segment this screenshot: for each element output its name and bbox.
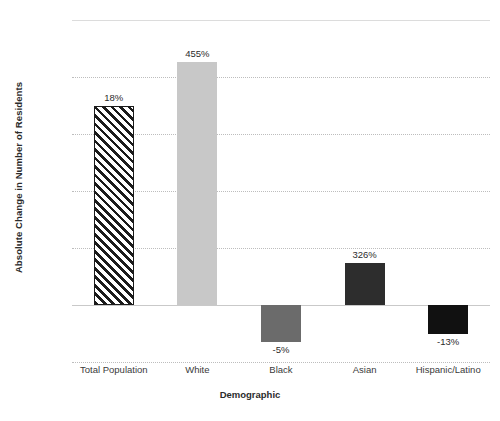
bar[interactable] [94, 106, 134, 306]
bar-chart: Absolute Change in Number of Residents 5… [0, 0, 500, 421]
bar[interactable] [428, 305, 468, 334]
bar[interactable] [261, 305, 301, 342]
gridline [72, 134, 490, 135]
plot-area: 5,0004,0003,0002,0001,0000-1,00018%455%-… [72, 20, 490, 362]
x-axis-category-label: Hispanic/Latino [406, 364, 490, 375]
gridline [72, 77, 490, 78]
gridline [72, 362, 490, 363]
gridline [72, 191, 490, 192]
bar-value-label: 18% [64, 92, 164, 103]
y-axis-title: Absolute Change in Number of Residents [13, 68, 24, 288]
gridline [72, 20, 490, 21]
bar-value-label: -5% [231, 344, 331, 355]
bar[interactable] [345, 263, 385, 305]
bar-value-label: -13% [398, 336, 498, 347]
bar-value-label: 455% [147, 48, 247, 59]
x-axis-category-label: Total Population [72, 364, 156, 375]
bar-value-label: 326% [315, 249, 415, 260]
x-axis-category-label: Asian [323, 364, 407, 375]
x-axis-category-label: Black [239, 364, 323, 375]
bar[interactable] [177, 62, 217, 305]
x-axis-title: Demographic [0, 389, 500, 400]
gridline [72, 248, 490, 249]
x-axis-category-label: White [156, 364, 240, 375]
